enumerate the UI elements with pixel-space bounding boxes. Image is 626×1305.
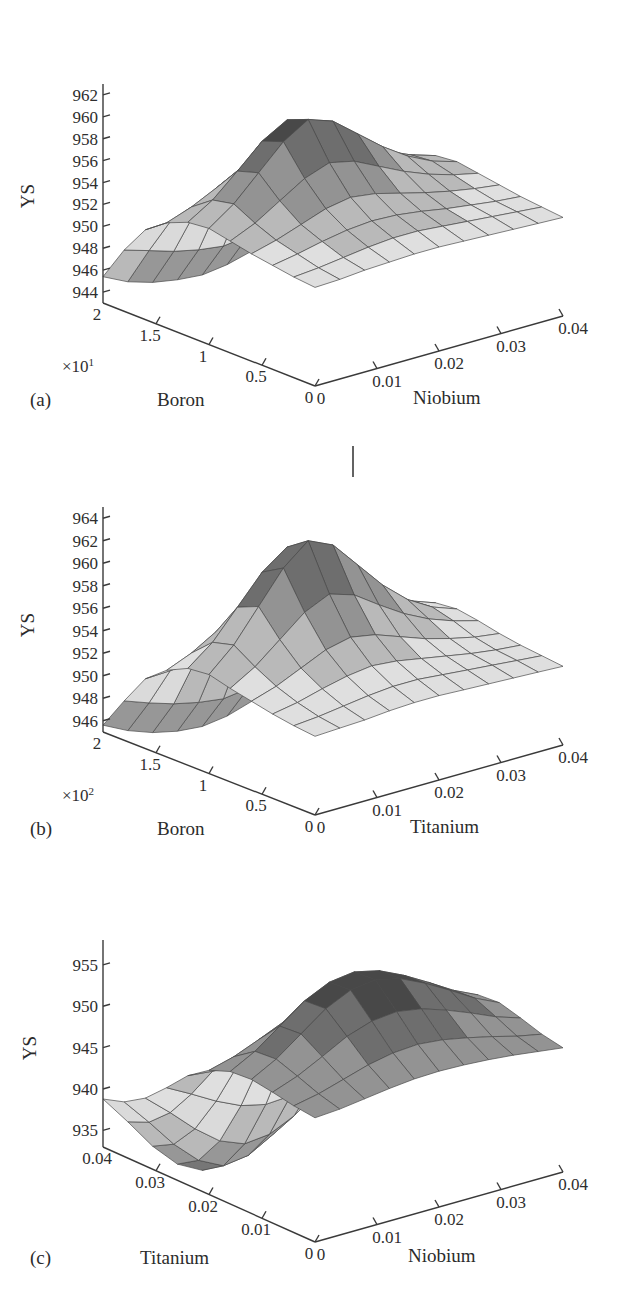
x-axis-multiplier-b: ×102 [62,785,94,805]
x-tick-label: 0.5 [245,367,266,386]
z-tick-mark [103,1004,110,1006]
x-tick-label: 1 [199,347,208,366]
y-tick-mark [559,309,563,316]
z-ticks-a: 944946948950952954956958960962 [73,86,111,302]
z-tick-label: 960 [73,108,99,127]
y-tick-mark [559,1165,563,1172]
y-tick-mark [559,738,563,745]
x-tick-mark [156,746,160,753]
surface-mesh-b [103,541,563,737]
z-tick-mark [103,629,110,631]
y-tick-label: 0.04 [558,1175,588,1194]
y-tick-label: 0 [317,818,326,837]
x-tick-label: 2 [93,305,102,324]
z-tick-label: 948 [73,689,99,708]
z-tick-label: 964 [73,509,99,528]
x-axis-title-a: Boron [157,389,205,410]
z-tick-mark [103,1046,110,1048]
z-tick-label: 944 [73,283,99,302]
x-tick-label: 1.5 [139,326,160,345]
y-tick-mark [497,756,501,763]
panel-b: 946948950952954956958960962964 21.510.50… [0,435,626,870]
y-tick-mark [373,791,377,798]
x-tick-label: 0 [305,1244,314,1263]
x-tick-label: 1.5 [139,755,160,774]
z-tick-label: 956 [73,599,99,618]
x-tick-mark [209,767,213,774]
z-tick-mark [103,1128,110,1130]
y-axis-title-c: Niobium [408,1245,476,1266]
y-tick-mark [435,344,439,351]
z-tick-mark [103,696,110,698]
z-tick-label: 955 [73,956,99,975]
z-tick-label: 952 [73,195,99,214]
x-tick-mark [156,1164,160,1171]
z-tick-mark [103,290,110,292]
y-tick-mark [435,1200,439,1207]
y-tick-mark [497,1183,501,1190]
z-tick-mark [103,137,110,139]
y-tick-label: 0.03 [496,1193,526,1212]
panel-label-a: (a) [30,389,51,411]
y-tick-label: 0.02 [434,783,464,802]
y-tick-mark [435,773,439,780]
z-tick-label: 962 [73,532,99,551]
z-tick-label: 945 [73,1039,99,1058]
z-tick-label: 956 [73,152,99,171]
z-tick-mark [103,516,110,518]
z-tick-label: 960 [73,554,99,573]
z-ticks-b: 946948950952954956958960962964 [73,509,111,731]
z-tick-label: 952 [73,644,99,663]
z-tick-mark [103,963,110,965]
panel-c-plot: 935940945950955 0.040.030.020.010 00.010… [0,870,626,1305]
y-tick-mark [373,362,377,369]
x-tick-label: 0 [305,388,314,407]
x-ticks-b: 21.510.50 [93,734,319,836]
x-tick-label: 0.03 [135,1173,165,1192]
surface-mesh-a [103,119,563,287]
y-tick-label: 0 [317,1245,326,1264]
panel-label-b: (b) [30,818,52,840]
z-tick-label: 946 [73,261,99,280]
z-tick-mark [103,224,110,226]
z-tick-label: 950 [73,667,99,686]
x-tick-mark [262,1211,266,1218]
y-tick-label: 0.03 [496,337,526,356]
y-tick-label: 0.04 [558,748,588,767]
z-tick-label: 958 [73,577,99,596]
z-tick-mark [103,93,110,95]
z-tick-label: 948 [73,239,99,258]
x-tick-mark [209,1188,213,1195]
x-tick-label: 0.01 [241,1220,271,1239]
z-tick-label: 946 [73,712,99,731]
z-tick-label: 940 [73,1080,99,1099]
z-tick-label: 950 [73,217,99,236]
three-panel-surface-figure: 944946948950952954956958960962 21.510.50… [0,0,626,1305]
z-axis-title-c: YS [19,1036,40,1060]
x-tick-label: 0.02 [188,1197,218,1216]
z-tick-label: 954 [73,174,99,193]
y-tick-label: 0.01 [372,801,402,820]
z-tick-mark [103,606,110,608]
z-tick-mark [103,651,110,653]
z-tick-label: 962 [73,86,99,105]
x-ticks-a: 21.510.50 [93,305,319,407]
y-tick-label: 0.01 [372,1228,402,1247]
panel-a: 944946948950952954956958960962 21.510.50… [0,0,626,435]
z-tick-label: 958 [73,130,99,149]
y-tick-mark [497,327,501,334]
x-tick-label: 0 [305,817,314,836]
z-tick-mark [103,246,110,248]
panel-c: 935940945950955 0.040.030.020.010 00.010… [0,870,626,1305]
y-axis-title-b: Titanium [410,816,479,837]
x-axis-title-b: Boron [157,818,205,839]
x-tick-label: 0.04 [82,1149,112,1168]
y-tick-label: 0.02 [434,1210,464,1229]
x-tick-label: 2 [93,734,102,753]
y-tick-label: 0.03 [496,766,526,785]
x-tick-label: 1 [199,776,208,795]
x-tick-mark [262,787,266,794]
z-tick-label: 954 [73,622,99,641]
z-tick-mark [103,115,110,117]
z-tick-mark [103,202,110,204]
